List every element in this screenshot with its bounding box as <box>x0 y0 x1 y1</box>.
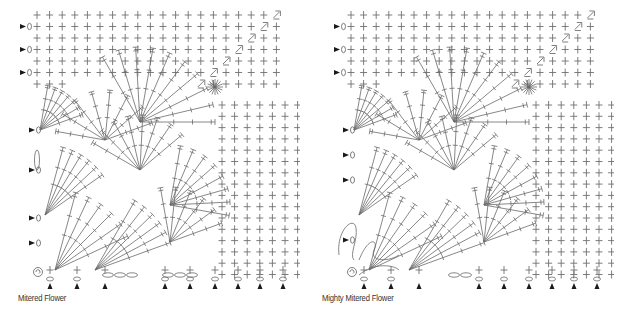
chart-panel-mitered-flower: Mitered Flower <box>0 0 300 317</box>
crochet-chart-mitered-flower <box>0 0 300 292</box>
figure-caption: Mitered Flower <box>18 293 66 303</box>
figure-caption: Mighty Mitered Flower <box>322 293 394 303</box>
chart-panel-mighty-mitered-flower: Mighty Mitered Flower <box>314 0 614 317</box>
crochet-chart-mighty-mitered-flower <box>314 0 614 292</box>
